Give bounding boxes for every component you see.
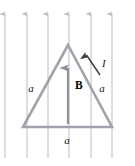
magnetic-field-lines: [5, 14, 112, 158]
label-side-bottom: a: [64, 134, 70, 146]
label-side-left: a: [28, 82, 34, 94]
figure-canvas: a a a B I: [0, 0, 135, 166]
label-side-right: a: [99, 82, 105, 94]
current-direction-arrow: [87, 55, 101, 75]
physics-figure-container: a a a B I: [0, 0, 135, 166]
label-current: I: [101, 57, 107, 69]
label-b-field: B: [75, 79, 83, 91]
